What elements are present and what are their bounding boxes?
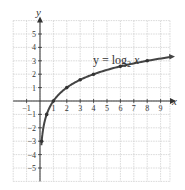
svg-text:8: 8 bbox=[145, 104, 149, 113]
svg-text:7: 7 bbox=[132, 104, 136, 113]
svg-text:−2: −2 bbox=[27, 124, 36, 133]
svg-text:−3: −3 bbox=[27, 137, 36, 146]
y-axis-label: y bbox=[35, 6, 41, 18]
axes bbox=[13, 17, 176, 182]
svg-text:3: 3 bbox=[32, 57, 36, 66]
svg-text:4: 4 bbox=[32, 43, 36, 52]
log2-chart: −1123456789−5−4−3−2−112345 y = log2 x x … bbox=[0, 0, 185, 190]
svg-text:−4: −4 bbox=[27, 151, 36, 160]
x-axis-label: x bbox=[171, 95, 177, 107]
equation-label: y = log2 x bbox=[93, 53, 140, 69]
svg-text:6: 6 bbox=[118, 104, 122, 113]
svg-text:−5: −5 bbox=[27, 164, 36, 173]
svg-text:3: 3 bbox=[78, 104, 82, 113]
svg-text:2: 2 bbox=[32, 70, 36, 79]
svg-text:−1: −1 bbox=[27, 110, 36, 119]
svg-text:4: 4 bbox=[92, 104, 96, 113]
svg-text:1: 1 bbox=[32, 84, 36, 93]
svg-text:9: 9 bbox=[159, 104, 163, 113]
svg-text:2: 2 bbox=[65, 104, 69, 113]
svg-text:5: 5 bbox=[32, 30, 36, 39]
svg-text:1: 1 bbox=[51, 104, 55, 113]
svg-text:5: 5 bbox=[105, 104, 109, 113]
